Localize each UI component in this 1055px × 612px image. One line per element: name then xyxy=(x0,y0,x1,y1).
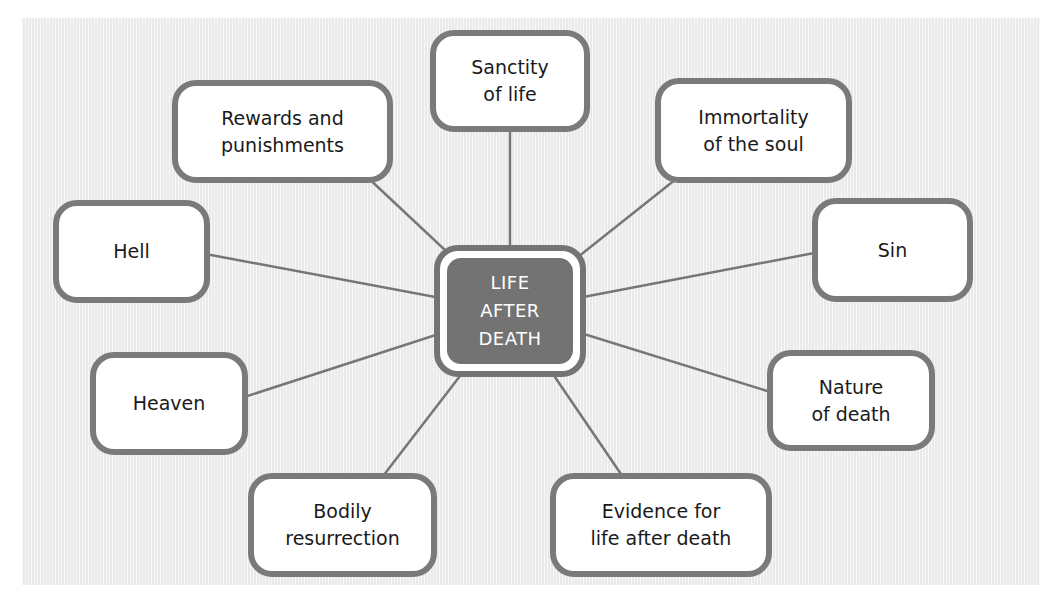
node-sanctity-of-life: Sanctity of life xyxy=(430,30,590,132)
node-nature-of-death: Nature of death xyxy=(767,350,935,451)
node-heaven: Heaven xyxy=(90,352,248,455)
node-bodily-resurrection: Bodily resurrection xyxy=(248,473,437,577)
node-rewards-and-punishments: Rewards and punishments xyxy=(172,80,393,183)
node-immortality-of-the-soul: Immortality of the soul xyxy=(655,78,852,183)
central-topic-label: LIFE AFTER DEATH xyxy=(447,258,573,364)
node-sin: Sin xyxy=(812,198,973,302)
node-evidence-for-life-after-death: Evidence for life after death xyxy=(550,473,772,577)
central-topic: LIFE AFTER DEATH xyxy=(434,245,586,377)
node-hell: Hell xyxy=(53,200,210,303)
